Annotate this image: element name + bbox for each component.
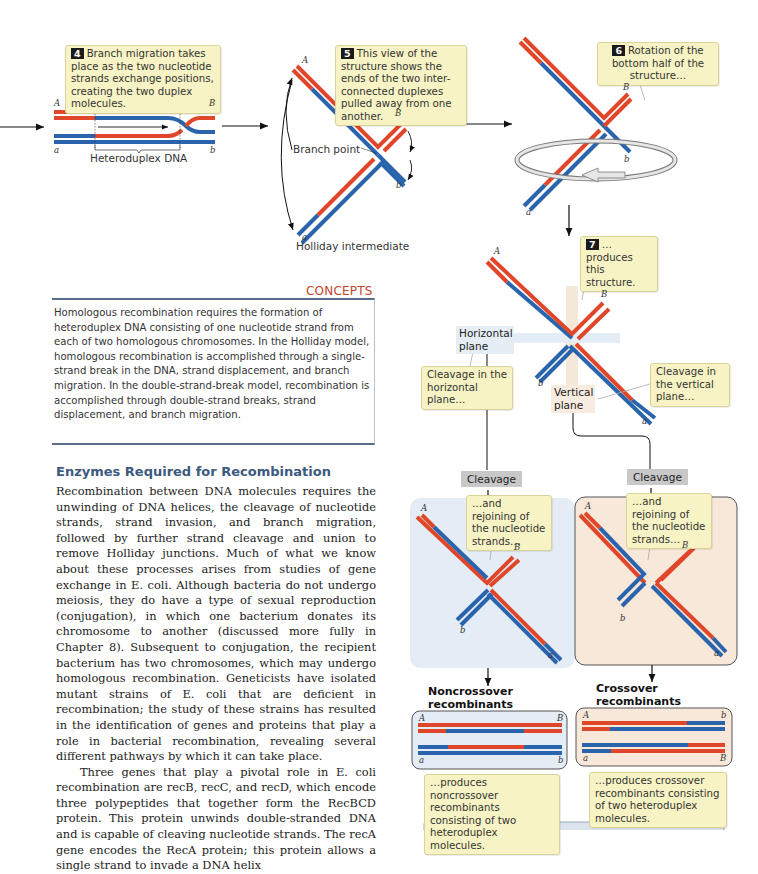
cleavage-vertical-callout: Cleavage in the vertical plane… [650,363,730,407]
noncrossover-caption: …produces noncrossover recombinants cons… [424,774,560,855]
branch-migration-duplexes [54,108,215,153]
step7-callout: 7…produces this structure. [580,236,658,292]
label-B-step4: B [209,98,215,108]
label-b-cross-box: b [721,710,726,720]
label-B-noncross: B [514,542,520,552]
label-B-step6: B [623,82,629,92]
branch-point-label: Branch point [293,143,360,155]
crossover-caption: …produces crossover recombinants consist… [589,772,727,828]
concepts-text: Homologous recombination requires the fo… [54,306,372,423]
label-a-noncross-box: a [419,755,424,765]
label-A-step7: A [494,246,500,256]
label-a-step4: a [54,145,59,155]
vertical-plane-label: Vertical plane [551,385,595,413]
step4-badge: 4 [71,48,84,59]
label-A-noncross-box: A [419,713,425,723]
label-b-noncross: b [460,625,465,635]
label-b-noncross-box: b [558,755,563,765]
label-B-step5: B [395,108,401,118]
label-A-step5: A [302,55,308,65]
step6-callout: 6Rotation of the bottom half of the stru… [597,42,719,86]
step5-badge: 5 [341,48,354,59]
noncrossover-title: Noncrossover recombinants [428,685,528,711]
label-B-step7: B [601,289,607,299]
horizontal-plane-label: Horizontal plane [456,326,514,354]
label-a-cross: a [714,648,719,658]
label-b-cross: b [620,613,625,623]
paragraph-2: Three genes that play a pivotal role in … [56,765,376,874]
label-b-step6: b [624,154,629,164]
rejoining-left-callout: …and rejoining of the nucleotide strands… [466,495,552,551]
label-B-noncross-box: B [557,713,563,723]
label-a-step7: a [642,416,647,426]
label-A-noncross: A [421,503,427,513]
concepts-title: CONCEPTS [306,284,373,298]
step6-text: Rotation of the bottom half of the struc… [612,45,704,81]
crossover-title: Crossover recombinants [596,682,686,708]
label-a-step6: a [526,207,531,217]
label-B-cross: B [682,540,688,550]
step4-callout: 4Branch migration takes place as the two… [65,45,221,114]
holliday-label: Holliday intermediate [296,240,409,252]
cleavage-horizontal-callout: Cleavage in the horizontal plane… [421,366,513,410]
label-A-step4: A [54,98,60,108]
label-a-noncross: a [548,650,553,660]
step6-badge: 6 [612,45,625,56]
section-heading: Enzymes Required for Recombination [56,464,331,479]
label-a-cross-box: a [583,753,588,763]
label-b-step5: b [396,180,401,190]
label-A-cross: A [585,501,591,511]
rejoining-right-callout: …and rejoining of the nucleotide strands… [626,493,712,549]
label-b-step4: b [210,145,215,155]
cleavage-horizontal-step: Cleavage [461,471,522,487]
label-A-cross-box: A [583,710,589,720]
step7-badge: 7 [586,239,599,250]
label-a-step5: a [302,232,307,242]
step4-text: Branch migration takes place as the two … [71,48,214,109]
paragraph-1: Recombination between DNA molecules requ… [56,484,376,765]
heteroduplex-label: Heteroduplex DNA [90,152,187,164]
label-B-cross-box: B [720,753,726,763]
label-b-step7: b [538,378,543,388]
cleavage-vertical-step: Cleavage [627,469,688,485]
section-body: Recombination between DNA molecules requ… [56,484,376,874]
